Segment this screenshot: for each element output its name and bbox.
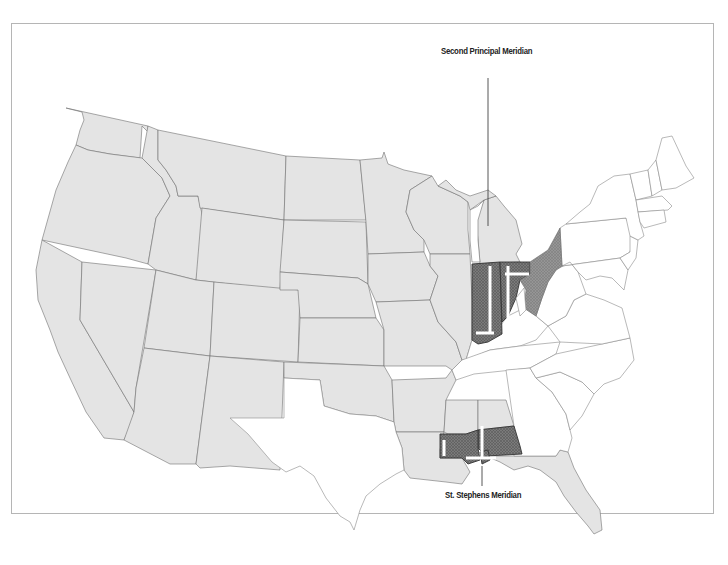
state-michigan <box>476 196 522 264</box>
us-map <box>0 0 728 565</box>
state-wyoming <box>196 208 284 290</box>
label-st-stephens-meridian: St. Stephens Meridian <box>445 489 521 500</box>
state-north-dakota <box>284 156 366 220</box>
state-utah <box>144 270 214 356</box>
state-maine <box>656 136 694 190</box>
state-colorado <box>210 282 300 362</box>
state-alabama-north <box>478 400 514 430</box>
state-kansas <box>298 318 384 366</box>
state-connecticut <box>638 210 666 228</box>
label-second-principal-meridian: Second Principal Meridian <box>441 45 532 56</box>
state-iowa <box>368 252 438 302</box>
state-mississippi-north <box>444 400 478 434</box>
